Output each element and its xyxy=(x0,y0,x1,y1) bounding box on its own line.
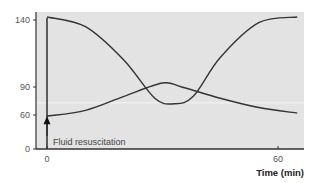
y-ticks: 06090140 xyxy=(15,15,36,154)
y-tick-label: 60 xyxy=(20,110,30,120)
annotation-label: Fluid resuscitation xyxy=(53,137,126,147)
plot-background xyxy=(36,12,304,149)
chart: 06090140 060 Fluid resuscitation Time (m… xyxy=(0,0,320,183)
x-tick-label: 60 xyxy=(273,154,283,164)
y-tick-label: 90 xyxy=(20,82,30,92)
x-tick-label: 0 xyxy=(44,154,49,164)
y-tick-label: 140 xyxy=(15,15,30,25)
x-axis-title: Time (min) xyxy=(256,167,304,178)
y-tick-label: 0 xyxy=(25,144,30,154)
